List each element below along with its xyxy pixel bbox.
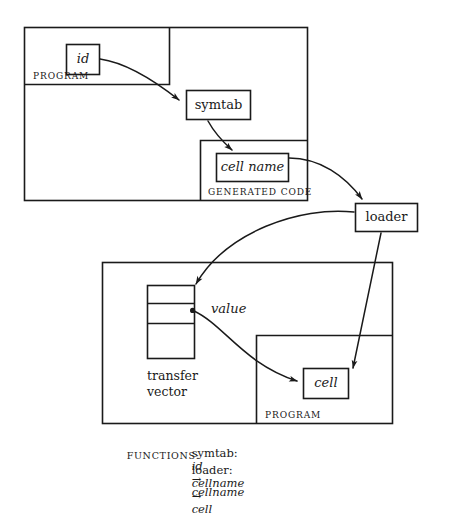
generated-code-label: GENERATED CODE — [208, 187, 312, 197]
bottom-outer-rect — [103, 263, 393, 424]
arrow-symtab-to-cell-name — [208, 121, 232, 150]
caption-range-2: cell — [192, 502, 213, 516]
arrow-loader-to-cell — [353, 233, 381, 368]
transfer-vector-rect — [148, 286, 195, 359]
cell-name-box-label: cell name — [216, 153, 289, 182]
program-label-top: PROGRAM — [33, 71, 89, 81]
transfer-vector-label-line2: vector — [147, 385, 187, 399]
transfer-vector-label-line1: transfer — [147, 369, 198, 383]
symtab-box-label: symtab — [186, 90, 251, 120]
arrow-value-to-cell — [194, 311, 297, 381]
loader-box-label: loader — [355, 203, 418, 232]
program-label-bottom: PROGRAM — [265, 410, 321, 420]
arrow-loader-to-transfer-vector — [196, 211, 354, 284]
cell-box-label: cell — [303, 368, 349, 399]
caption-line-2: loader: cellname → cell — [177, 451, 244, 517]
value-label: value — [211, 302, 246, 317]
arrow-id-to-symtab — [100, 59, 179, 100]
value-anchor-dot — [190, 308, 195, 313]
